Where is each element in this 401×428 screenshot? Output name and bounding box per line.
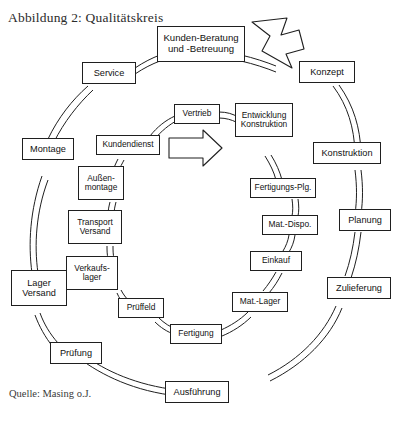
figure-source-citation: Quelle: Masing o.J. [9, 388, 91, 399]
node-transport-versand[interactable]: Transport Versand [68, 210, 122, 244]
inner-flow-arrow [169, 130, 222, 166]
node-mat-lager[interactable]: Mat.-Lager [232, 292, 288, 312]
node-zulieferung[interactable]: Zulieferung [327, 277, 391, 299]
node-fertigungs-plg[interactable]: Fertigungs-Plg. [250, 178, 316, 198]
node-kundendienst[interactable]: Kundendienst [96, 135, 160, 155]
node-lager-versand[interactable]: Lager Versand [11, 270, 67, 306]
node-service[interactable]: Service [82, 62, 136, 84]
node-prueffeld[interactable]: Prüffeld [118, 298, 164, 318]
figure-qualitaetskreis: Abbildung 2: Qualitätskreis [0, 0, 401, 428]
node-entwicklung-konstruktion[interactable]: Entwicklung Konstruktion [235, 103, 293, 137]
node-montage[interactable]: Montage [22, 138, 74, 160]
node-einkauf[interactable]: Einkauf [250, 251, 302, 271]
node-fertigung[interactable]: Fertigung [170, 324, 222, 344]
node-konzept[interactable]: Konzept [299, 61, 355, 83]
node-pruefung[interactable]: Prüfung [50, 342, 102, 364]
node-konstruktion[interactable]: Konstruktion [313, 142, 381, 164]
node-kunden-beratung-und-betreuung[interactable]: Kunden-Beratung und -Betreuung [157, 26, 245, 62]
node-ausfuehrung[interactable]: Ausführung [165, 381, 229, 403]
node-aussenmontage[interactable]: Außen- montage [78, 166, 124, 200]
node-vertrieb[interactable]: Vertrieb [174, 104, 220, 124]
node-verkaufslager[interactable]: Verkaufs- lager [66, 256, 118, 290]
node-mat-dispo[interactable]: Mat.-Dispo. [262, 215, 318, 235]
node-planung[interactable]: Planung [339, 209, 391, 231]
